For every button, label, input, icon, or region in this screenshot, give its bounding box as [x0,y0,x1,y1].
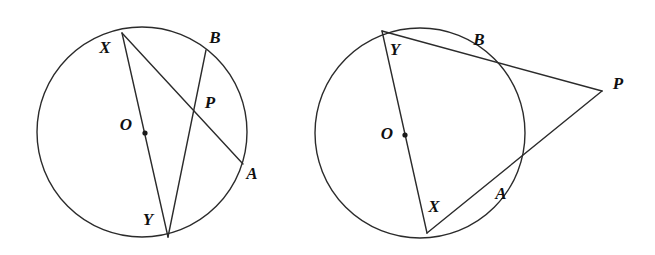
geometry-figure-board: OXBPAYOYBPAX [0,0,655,255]
point-label-x: X [98,38,111,57]
point-label-b: B [208,28,220,47]
geometry-diagram-canvas: OXBPAYOYBPAX [0,0,655,255]
point-label-a: A [494,184,506,203]
circle-outline [315,28,525,238]
point-label-x: X [427,197,440,216]
point-label-y: Y [390,40,402,59]
point-label-a: A [245,164,257,183]
center-label-o: O [381,124,393,143]
chord-x-a [122,33,243,164]
point-label-b: B [472,30,484,49]
center-point-dot [402,132,407,137]
point-label-y: Y [143,210,155,229]
chord-b-y [168,50,206,237]
center-label-o: O [120,115,132,134]
secant-x-a-p [427,91,602,233]
point-label-p: P [612,74,624,93]
point-label-p: P [204,93,216,112]
center-point-dot [142,130,147,135]
circle-outline [37,27,247,237]
secant-y-b-p [382,31,602,91]
secants-intersecting-inside-circle: OXBPAY [37,27,258,237]
secants-intersecting-outside-circle: OYBPAX [315,28,624,238]
